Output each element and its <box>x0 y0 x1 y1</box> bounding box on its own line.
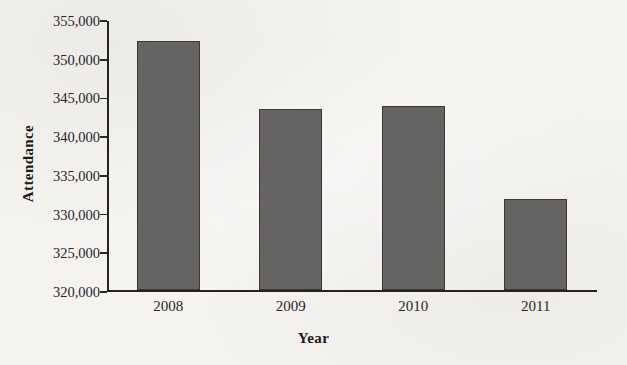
x-axis-title: Year <box>0 330 627 347</box>
x-axis-tick-label: 2008 <box>118 298 218 315</box>
y-axis-tick <box>100 252 107 254</box>
y-axis-tick-label: 345,000 <box>28 91 100 106</box>
bar-2008 <box>137 41 200 290</box>
y-axis-tick-label: 325,000 <box>28 246 100 261</box>
y-axis-tick <box>100 214 107 216</box>
y-axis-tick <box>100 175 107 177</box>
y-axis-tick-label: 335,000 <box>28 169 100 184</box>
x-axis-tick-label: 2009 <box>241 298 341 315</box>
y-axis-tick <box>100 98 107 100</box>
y-axis-tick-label: 350,000 <box>28 53 100 68</box>
y-axis-tick-label: 340,000 <box>28 130 100 145</box>
y-axis-tick <box>100 20 107 22</box>
bar-2009 <box>259 109 322 290</box>
y-axis-tick-label: 330,000 <box>28 208 100 223</box>
x-axis-tick-label: 2011 <box>486 298 586 315</box>
x-axis-line <box>107 290 597 292</box>
y-axis-tick <box>100 59 107 61</box>
y-axis-tick <box>100 136 107 138</box>
x-axis-tick-label: 2010 <box>363 298 463 315</box>
bar-2010 <box>382 106 445 290</box>
bar-chart: Attendance 320,000325,000330,000335,0003… <box>0 0 627 365</box>
y-axis-line <box>107 21 109 292</box>
y-axis-tick <box>100 291 107 293</box>
bar-2011 <box>504 199 567 290</box>
y-axis-tick-labels: 320,000325,000330,000335,000340,000345,0… <box>28 0 100 365</box>
y-axis-tick-label: 320,000 <box>28 285 100 300</box>
y-axis-tick-label: 355,000 <box>28 14 100 29</box>
plot-area <box>107 21 597 292</box>
